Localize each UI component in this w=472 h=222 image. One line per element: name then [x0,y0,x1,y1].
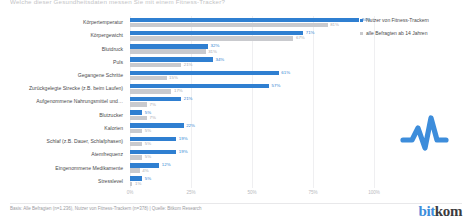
category-label-row: Eingenommene Medikamente [0,162,126,175]
x-axis: 0%25%50%75%100% [130,190,374,200]
bar-row: 19%5% [130,135,374,148]
category-label-row: Blutzucker [0,109,126,122]
category-label: Kalorien [104,126,126,131]
bar-value-label: 12% [162,163,171,167]
pulse-waveform-icon [400,112,456,156]
bar-tracker-users [130,97,181,102]
bar-all-respondents [130,49,206,54]
bar-value-label: 34% [215,58,224,62]
bar-row: 12%4% [130,162,374,175]
category-label-row: Körpergewicht [0,29,126,42]
bar-all-respondents [130,23,328,28]
bar-tracker-users [130,18,359,23]
bar-value-label: 22% [186,124,195,128]
bar-row: 22%5% [130,122,374,135]
footer-divider [10,203,462,204]
bar-row: 19%5% [130,148,374,161]
bar-value-label: 1% [135,182,141,186]
bar-value-label: 67% [296,36,305,40]
bar-value-label: 17% [174,89,183,93]
category-label: Atemfrequenz [91,152,126,157]
bar-all-respondents [130,102,147,107]
x-axis-tick: 100% [368,190,380,195]
bar-value-label: 81% [330,23,339,27]
bar-row: 34%21% [130,56,374,69]
x-axis-tick: 50% [247,190,256,195]
category-label: Zurückgelegte Strecke (z.B. beim Laufen) [29,86,126,91]
bar-value-label: 7% [150,116,156,120]
legend-swatch [360,32,363,35]
bar-all-respondents [130,155,142,160]
bar-tracker-users [130,44,208,49]
legend-item[interactable]: alle Befragten ab 14 Jahren [360,30,470,36]
chart-title: Welche dieser Gesundheitsdaten messen Si… [10,0,225,5]
legend-label: Nutzer von Fitness-Trackern [366,17,429,23]
bar-value-label: 21% [184,63,193,67]
category-label-row: Stresslevel [0,175,126,188]
bar-value-label: 71% [306,31,315,35]
bar-tracker-users [130,84,269,89]
bar-all-respondents [130,116,147,121]
category-label: Körpertemperatur [83,20,126,25]
bar-row: 21%7% [130,95,374,108]
category-label-row: Puls [0,56,126,69]
bar-value-label: 61% [281,71,290,75]
category-label-row: Atemfrequenz [0,148,126,161]
bar-tracker-users [130,123,184,128]
x-axis-tick: 75% [308,190,317,195]
plot-area: 94%81%71%67%32%31%34%21%61%15%57%17%21%7… [130,16,374,188]
category-label-row: Aufgenommene Nahrungsmittel und… [0,95,126,108]
chart-page: Welche dieser Gesundheitsdaten messen Si… [0,0,472,222]
category-label-row: Kalorien [0,122,126,135]
bar-value-label: 15% [169,76,178,80]
category-label-row: Zurückgelegte Strecke (z.B. beim Laufen) [0,82,126,95]
bar-row: 32%31% [130,42,374,55]
bar-row: 5%1% [130,175,374,188]
bar-tracker-users [130,150,176,155]
bar-tracker-users [130,137,176,142]
bar-tracker-users [130,57,213,62]
bar-tracker-users [130,110,142,115]
bitkom-logo: bitkom [419,203,462,220]
category-label: Eingenommene Medikamente [55,166,126,171]
bar-tracker-users [130,163,159,168]
bar-value-label: 19% [179,137,188,141]
logo-bit: bit [419,203,435,219]
bar-row: 94%81% [130,16,374,29]
category-label-row: Blutdruck [0,42,126,55]
bar-row: 61%15% [130,69,374,82]
bar-row: 71%67% [130,29,374,42]
logo-kom: kom [435,203,462,219]
bar-all-respondents [130,76,167,81]
category-label: Körpergewicht [90,33,126,38]
category-label: Gegangene Schritte [78,73,126,78]
bar-all-respondents [130,142,142,147]
bar-value-label: 5% [145,155,151,159]
source-note: Basis: Alle Befragten (n=1.236), Nutzer … [10,206,202,211]
category-label-row: Gegangene Schritte [0,69,126,82]
bar-all-respondents [130,182,132,187]
bar-value-label: 4% [142,169,148,173]
bar-all-respondents [130,89,171,94]
bar-row: 5%7% [130,109,374,122]
x-axis-tick: 0% [127,190,134,195]
bar-value-label: 31% [208,50,217,54]
bar-all-respondents [130,129,142,134]
category-label-row: Schlaf (z.B. Dauer, Schlafphasen) [0,135,126,148]
category-label: Aufgenommene Nahrungsmittel und… [36,99,126,104]
bar-value-label: 19% [179,150,188,154]
bar-all-respondents [130,168,140,173]
bar-all-respondents [130,36,293,41]
legend-swatch [360,19,363,22]
bar-value-label: 5% [145,129,151,133]
category-label-column: KörpertemperaturKörpergewichtBlutdruckPu… [0,16,126,188]
bar-tracker-users [130,71,279,76]
legend-label: alle Befragten ab 14 Jahren [366,30,427,36]
legend-item[interactable]: Nutzer von Fitness-Trackern [360,17,470,23]
bar-value-label: 57% [272,84,281,88]
bar-value-label: 7% [150,103,156,107]
bar-value-label: 5% [145,142,151,146]
category-label: Blutzucker [99,113,126,118]
bar-tracker-users [130,31,303,36]
category-label: Stresslevel [98,179,126,184]
